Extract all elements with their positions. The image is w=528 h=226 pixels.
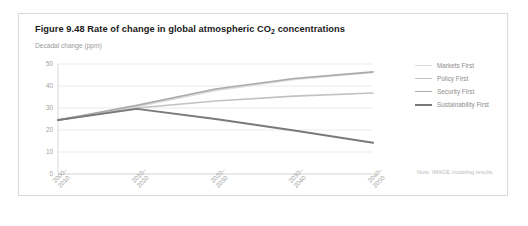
y-tick-label: 30 <box>33 105 53 111</box>
y-tick-label: 40 <box>33 83 53 89</box>
series-lines <box>58 72 373 143</box>
figure-card: Figure 9.48 Rate of change in global atm… <box>18 13 508 196</box>
chart-legend: Markets FirstPolicy FirstSecurity FirstS… <box>415 59 507 111</box>
series-line <box>58 109 373 143</box>
series-line <box>58 93 373 120</box>
legend-label: Security First <box>437 88 474 95</box>
y-tick-label: 50 <box>33 61 53 67</box>
legend-swatch <box>415 104 432 106</box>
legend-label: Sustainability First <box>437 101 489 108</box>
legend-label: Policy First <box>437 75 468 82</box>
legend-swatch <box>415 91 432 92</box>
legend-item: Policy First <box>415 72 507 85</box>
source-note: Note: IMAGE modeling results. <box>417 169 494 175</box>
legend-item: Sustainability First <box>415 98 507 111</box>
legend-item: Security First <box>415 85 507 98</box>
legend-label: Markets First <box>437 62 474 69</box>
legend-item: Markets First <box>415 59 507 72</box>
legend-swatch <box>415 65 432 66</box>
legend-swatch <box>415 78 432 79</box>
y-tick-label: 20 <box>33 127 53 133</box>
y-tick-label: 0 <box>33 171 53 177</box>
y-tick-label: 10 <box>33 149 53 155</box>
